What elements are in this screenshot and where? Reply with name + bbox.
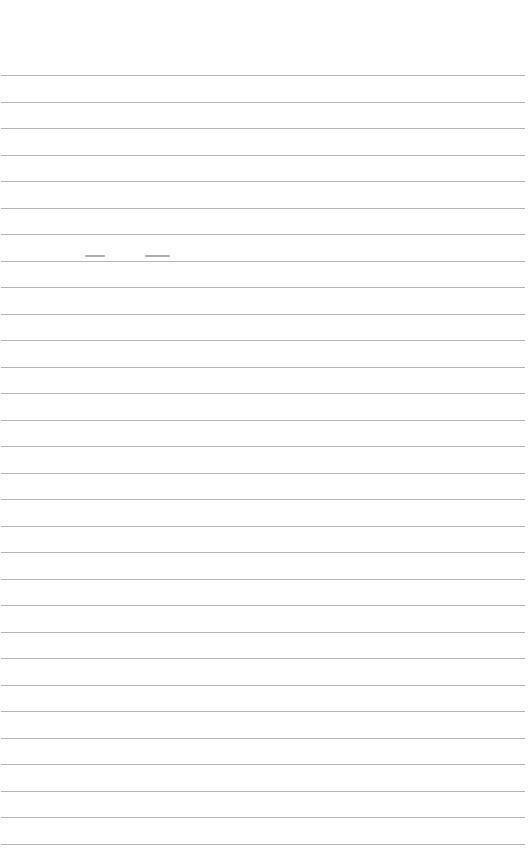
ruled-line [1, 128, 525, 129]
ruled-line [1, 738, 525, 739]
ruled-line [1, 579, 525, 580]
ruled-line [1, 367, 525, 368]
ruled-line [1, 155, 525, 156]
ruled-line [1, 552, 525, 553]
ruled-line [1, 605, 525, 606]
ruled-line [1, 420, 525, 421]
ruled-line [1, 844, 525, 845]
ruled-line [1, 764, 525, 765]
ruled-line [1, 208, 525, 209]
ruled-line [1, 340, 525, 341]
ruled-line [1, 287, 525, 288]
ruled-line [1, 446, 525, 447]
ruled-line [1, 791, 525, 792]
ruled-line [1, 102, 525, 103]
lined-paper-sheet [0, 0, 529, 867]
ruled-line [1, 314, 525, 315]
ruled-line [1, 473, 525, 474]
ruled-line [1, 632, 525, 633]
ruled-line [1, 393, 525, 394]
ruled-line [1, 181, 525, 182]
smudge-mark [145, 255, 170, 257]
ruled-line [1, 685, 525, 686]
ruled-line [1, 75, 525, 76]
ruled-line [1, 711, 525, 712]
ruled-line [1, 234, 525, 235]
ruled-line [1, 261, 525, 262]
ruled-line [1, 658, 525, 659]
ruled-line [1, 526, 525, 527]
smudge-mark [85, 255, 105, 257]
ruled-line [1, 817, 525, 818]
ruled-line [1, 499, 525, 500]
